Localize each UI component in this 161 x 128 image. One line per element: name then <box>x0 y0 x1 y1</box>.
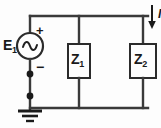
source-polarity-plus: + <box>36 24 44 37</box>
source-polarity-minus: − <box>36 60 44 74</box>
impedance-z2-label: Z2 <box>134 52 147 66</box>
source-label-text: E <box>3 37 12 53</box>
junction-dot-lower <box>27 93 34 100</box>
arrow-down-icon <box>148 21 156 29</box>
circuit-diagram-canvas: E1 + − Z1 Z2 I <box>0 0 161 128</box>
impedance-z1-label-subscript: 1 <box>79 59 84 69</box>
impedance-z2-label-subscript: 2 <box>142 59 147 69</box>
source-label: E1 <box>3 38 17 52</box>
junction-dot-upper <box>27 71 34 78</box>
source-label-subscript: 1 <box>12 45 17 55</box>
current-label: I <box>158 8 161 20</box>
impedance-z1-label: Z1 <box>71 52 84 66</box>
